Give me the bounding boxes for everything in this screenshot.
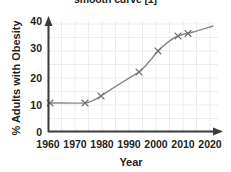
y-tick-label: 40 <box>30 15 42 27</box>
x-tick-label: 1970 <box>63 138 87 150</box>
y-axis-arrowhead <box>45 16 53 26</box>
y-axis-title: % Adults with Obesity <box>10 20 22 136</box>
x-tick-label: 1990 <box>117 138 141 150</box>
x-tick-label: 2020 <box>198 138 222 150</box>
chart-figure: smooth curve [1] <box>0 0 231 172</box>
x-tick-label: 2010 <box>171 138 195 150</box>
x-tick-label: 2000 <box>144 138 168 150</box>
x-axis-title: Year <box>119 156 143 168</box>
y-tick-label: 10 <box>30 99 42 111</box>
y-tick-label: 0 <box>36 126 42 138</box>
y-tick-label: 20 <box>30 72 42 84</box>
x-tick-label: 1960 <box>36 138 60 150</box>
chart-plot-area: 40 30 20 10 0 1960 1970 1980 1990 2000 2… <box>0 0 231 172</box>
x-axis-arrowhead <box>213 128 223 136</box>
y-tick-label: 30 <box>30 42 42 54</box>
data-point-marker <box>136 69 142 75</box>
data-point-marker <box>98 93 104 99</box>
x-tick-label: 1980 <box>90 138 114 150</box>
